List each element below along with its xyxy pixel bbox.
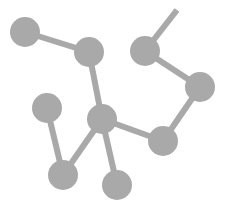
atom-node bbox=[87, 104, 117, 134]
atom-node bbox=[32, 93, 62, 123]
molecule-network-icon bbox=[0, 0, 227, 207]
molecule-diagram bbox=[0, 0, 227, 207]
atom-node bbox=[130, 36, 160, 66]
atom-node bbox=[148, 126, 178, 156]
atom-node bbox=[185, 72, 215, 102]
atom-node bbox=[48, 160, 78, 190]
atom-node bbox=[10, 17, 40, 47]
atom-node bbox=[74, 37, 104, 67]
atom-node bbox=[102, 170, 132, 200]
